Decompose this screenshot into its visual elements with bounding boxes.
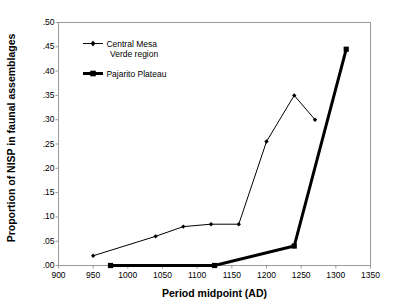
series-central-mesa-verde xyxy=(91,93,317,258)
data-point-marker xyxy=(212,263,217,268)
series-pajarito-plateau xyxy=(108,47,349,268)
data-point-marker xyxy=(237,222,241,226)
series-line xyxy=(111,49,347,265)
series-line xyxy=(93,95,315,255)
legend-item-central-mesa-verde: Central Mesa Verde region xyxy=(82,38,166,59)
data-point-marker xyxy=(91,254,95,258)
data-point-marker xyxy=(209,222,213,226)
data-point-marker xyxy=(153,234,157,238)
legend-thick-line-marker-icon xyxy=(82,69,104,78)
chart-container: Proportion of NISP in faunal assemblages… xyxy=(0,0,398,306)
data-point-marker xyxy=(292,243,297,248)
data-point-marker xyxy=(264,139,268,143)
data-point-marker xyxy=(344,47,349,52)
data-point-marker xyxy=(108,263,113,268)
legend-label-pajarito-plateau: Pajarito Plateau xyxy=(106,69,166,79)
plot-area xyxy=(0,0,398,306)
data-point-marker xyxy=(181,224,185,228)
legend-label-central-mesa-verde-line1: Central Mesa xyxy=(106,39,157,49)
legend-item-pajarito-plateau: Pajarito Plateau xyxy=(82,68,166,79)
legend-thin-line-marker-icon xyxy=(82,39,104,48)
chart-legend: Central Mesa Verde region Pajarito Plate… xyxy=(82,38,166,79)
legend-label-central-mesa-verde-line2: Verde region xyxy=(110,49,166,59)
